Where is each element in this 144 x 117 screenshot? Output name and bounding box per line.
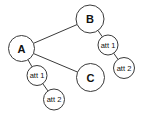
edge-b-to-b-att1	[98, 31, 102, 37]
edge-a-att1-to-a-att2	[43, 84, 48, 91]
node-label: B	[86, 13, 94, 25]
diagram-canvas: ABCatt 1att 2att 1att 2	[0, 0, 144, 117]
node-label: A	[18, 43, 26, 55]
attribute-node-b-att1: att 1	[98, 35, 118, 55]
node-label: att 2	[47, 95, 62, 104]
entity-node-c: C	[77, 64, 105, 92]
node-label: att 1	[101, 41, 116, 50]
entity-node-a: A	[9, 36, 35, 62]
attribute-node-a-att1: att 1	[27, 66, 47, 86]
entity-node-b: B	[76, 5, 104, 33]
node-label: att 2	[117, 64, 132, 73]
attribute-node-b-att2: att 2	[114, 58, 135, 79]
attribute-node-a-att2: att 2	[44, 89, 65, 110]
edge-a-to-a-att1	[28, 60, 32, 67]
nodes-layer: ABCatt 1att 2att 1att 2	[9, 5, 135, 110]
edge-b-att1-to-b-att2	[114, 53, 118, 59]
edge-a-to-b	[33, 25, 77, 44]
node-label: att 1	[30, 71, 45, 80]
node-label: C	[87, 72, 95, 84]
